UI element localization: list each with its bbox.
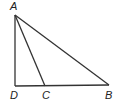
label-d: D — [10, 89, 18, 101]
triangle-diagram: A D C B — [0, 0, 117, 106]
segment-db — [15, 85, 109, 86]
label-a: A — [9, 0, 17, 12]
label-c: C — [42, 89, 50, 101]
label-b: B — [105, 89, 112, 101]
